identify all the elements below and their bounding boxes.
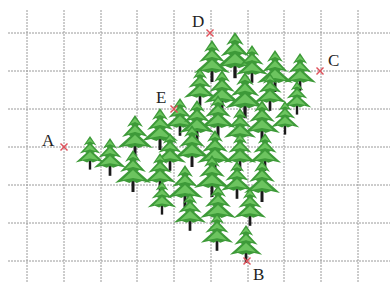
tree-icon — [115, 150, 151, 192]
tree-icon — [230, 225, 262, 263]
tree-icon — [224, 133, 256, 171]
forest-trees — [76, 32, 317, 263]
point-label-b: B — [253, 265, 264, 284]
point-label-a: A — [42, 131, 55, 150]
tree-icon — [201, 213, 233, 251]
point-label-e: E — [156, 88, 166, 107]
tree-icon — [284, 53, 316, 91]
grid-diagram: ABCDE — [0, 0, 390, 288]
point-label-c: C — [328, 51, 339, 70]
point-label-d: D — [192, 12, 204, 31]
tree-icon — [174, 193, 206, 231]
tree-icon — [117, 115, 153, 157]
tree-icon — [94, 138, 126, 176]
tree-icon — [148, 181, 177, 215]
tree-icon — [225, 72, 265, 118]
